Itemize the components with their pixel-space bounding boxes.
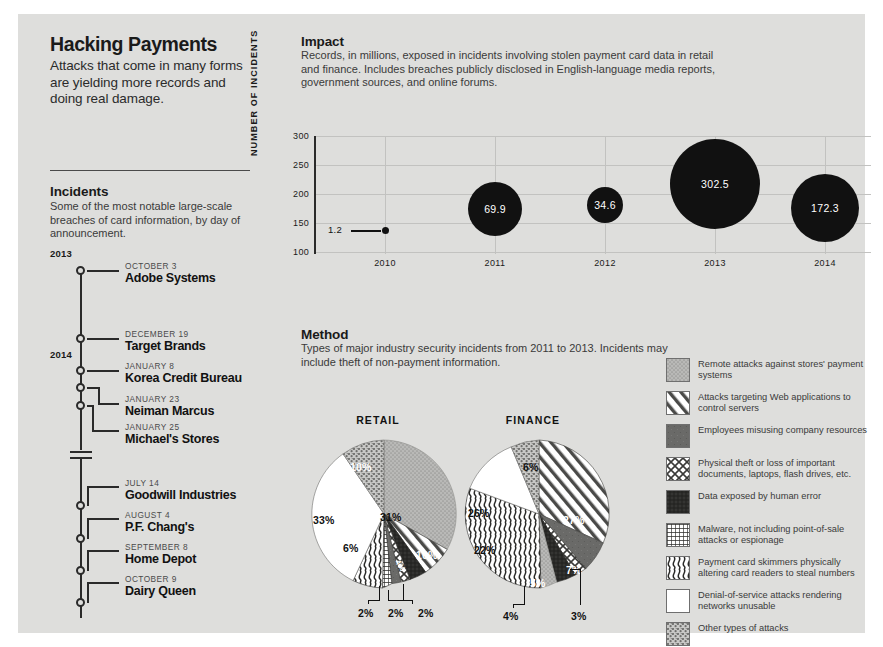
bubble-2014-value: 172.3 [811,202,839,214]
y-tick-100: 100 [273,247,309,257]
event-name: Dairy Queen [125,584,265,598]
list-item[interactable]: OCTOBER 9 Dairy Queen [125,574,265,598]
retail-callout-leader [379,586,380,600]
timeline-leader-vertical [92,405,94,431]
gridline [315,165,871,166]
timeline-node[interactable] [76,383,85,392]
divider-rule [50,170,250,171]
finance-label-6: 6% [523,461,539,473]
list-item[interactable]: AUGUST 4 P.F. Chang's [125,510,265,534]
event-name: Korea Credit Bureau [125,371,265,385]
bubble-2010-value: 1.2 [328,224,342,235]
swatch-physical-theft-icon [666,457,690,481]
list-item[interactable]: JANUARY 8 Korea Credit Bureau [125,361,265,385]
timeline-node[interactable] [76,501,85,510]
method-pie-charts: RETAIL 31% 10% 4% 6% 33% 10% [308,414,668,629]
timeline-node[interactable] [76,598,85,607]
list-item[interactable]: JULY 14 Goodwill Industries [125,478,265,502]
retail-label-2-c: 2% [418,607,434,619]
list-item[interactable]: SEPTEMBER 8 Home Depot [125,542,265,566]
retail-label-2-b: 2% [388,607,404,619]
event-date: JANUARY 23 [125,394,265,404]
finance-callout-leader [524,586,525,604]
retail-pie-title: RETAIL [318,414,438,426]
list-item[interactable]: OCTOBER 3 Adobe Systems [125,261,265,285]
swatch-malware-icon [666,523,690,547]
event-date: DECEMBER 19 [125,329,265,339]
legend-item-malware[interactable]: Malware, not including point-of-sale att… [666,523,871,547]
event-name: Home Depot [125,552,265,566]
timeline-leader [87,582,119,584]
timeline-leader [92,430,119,432]
swatch-remote-attacks-icon [666,358,690,382]
timeline-node[interactable] [76,566,85,575]
retail-callout-leader [412,600,413,604]
finance-label-22: 22% [474,544,496,556]
legend-item-web-applications[interactable]: Attacks targeting Web applications to co… [666,391,871,415]
timeline-leader [87,518,119,520]
incidents-timeline: 2013 2014 OCTOBER 3 Adobe Systems DECEMB… [50,246,260,628]
legend-item-skimmers[interactable]: Payment card skimmers physically alterin… [666,556,871,580]
y-axis-line [314,136,316,254]
retail-callout-leader [368,600,380,601]
timeline-node[interactable] [76,401,85,410]
swatch-other-icon [666,622,690,646]
legend-item-human-error[interactable]: Data exposed by human error [666,490,871,514]
legend-item-denial-of-service[interactable]: Denial-of-service attacks rendering netw… [666,589,871,613]
event-name: Goodwill Industries [125,488,265,502]
list-item[interactable]: JANUARY 25 Michael's Stores [125,422,265,446]
bubble-2011-value: 69.9 [484,203,506,215]
retail-label-31: 31% [380,511,402,523]
bubble-2011[interactable]: 69.9 [468,182,522,236]
timeline-leader [87,270,119,272]
timeline-leader-vertical [87,582,89,603]
timeline-leader [87,486,119,488]
gridline [315,252,871,253]
finance-callout-leader [513,604,514,608]
bubble-2014[interactable]: 172.3 [791,174,859,242]
bubble-2010[interactable] [382,227,389,234]
timeline-year-2014: 2014 [50,349,72,360]
event-date: SEPTEMBER 8 [125,542,265,552]
timeline-leader [87,550,119,552]
bubble-2012-value: 34.6 [594,199,616,211]
retail-label-6: 6% [343,542,359,554]
infographic-page: Hacking Payments Attacks that come in ma… [18,14,865,633]
swatch-denial-of-service-icon [666,589,690,613]
retail-callout-leader [403,584,404,600]
timeline-node[interactable] [76,534,85,543]
event-name: Michael's Stores [125,432,265,446]
legend-label: Malware, not including point-of-sale att… [698,523,871,546]
x-tick-2013: 2013 [687,258,743,268]
legend-label: Denial-of-service attacks rendering netw… [698,589,871,612]
gridline [315,136,871,137]
method-legend: Remote attacks against stores' payment s… [666,358,871,647]
swatch-web-applications-icon [666,391,690,415]
legend-item-employee-misuse[interactable]: Employees misusing company resources [666,424,871,448]
retail-callout-leader [388,590,389,600]
gridline-vertical [385,136,386,254]
swatch-human-error-icon [666,490,690,514]
legend-item-other[interactable]: Other types of attacks [666,622,871,646]
retail-label-10-web: 10% [416,549,438,561]
list-item[interactable]: DECEMBER 19 Target Brands [125,329,265,353]
y-tick-250: 250 [273,160,309,170]
method-description: Types of major industry security inciden… [301,342,701,369]
list-item[interactable]: JANUARY 23 Neiman Marcus [125,394,265,418]
legend-item-remote-attacks[interactable]: Remote attacks against stores' payment s… [666,358,871,382]
timeline-node[interactable] [76,266,85,275]
legend-item-physical-theft[interactable]: Physical theft or loss of important docu… [666,457,871,481]
event-name: Target Brands [125,339,265,353]
event-name: Adobe Systems [125,271,265,285]
gridline [315,223,871,224]
timeline-node[interactable] [76,334,85,343]
finance-label-4: 4% [503,610,519,622]
event-date: OCTOBER 9 [125,574,265,584]
bubble-2013[interactable]: 302.5 [670,139,760,229]
event-name: P.F. Chang's [125,520,265,534]
y-tick-150: 150 [273,218,309,228]
impact-section: Impact Records, in millions, exposed in … [301,34,721,90]
bubble-2012[interactable]: 34.6 [587,187,623,223]
finance-pie-title: FINANCE [473,414,593,426]
timeline-node[interactable] [76,366,85,375]
